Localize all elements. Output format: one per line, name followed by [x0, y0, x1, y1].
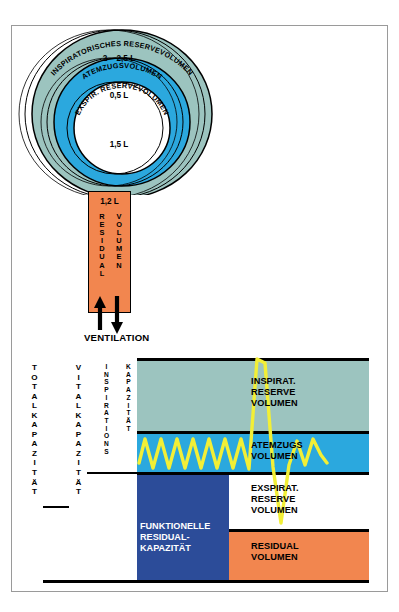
cap-irv-l2: RESERVE — [251, 387, 295, 397]
ring-value-erv: 1,5 L — [110, 140, 129, 149]
capacity-label-inspiratory-part2: KAPAZITÄT — [123, 363, 134, 432]
cap-tv-l2: VOLUMEN — [251, 451, 298, 461]
ventilation-label: VENTILATION — [84, 332, 184, 343]
capacity-label-total: TOTALKAPAZITÄT — [29, 363, 40, 497]
capacity-label-vital: VITALKAPAZITÄT — [73, 363, 84, 497]
frc-label: FUNKTIONELLE RESIDUAL- KAPAZITÄT — [140, 521, 232, 555]
caption-expiratory-reserve-volume: EXSPIRAT. RESERVE VOLUMEN — [251, 483, 299, 516]
rule-total-capacity-top — [137, 358, 369, 361]
cap-rv-l1: RESIDUAL — [251, 541, 299, 551]
diagram-page: INSPIRATORISCHES RESERVEVOLUMEN ATEMZUGS… — [0, 0, 399, 612]
residual-volume-box: 1,2 L RESIDUAL VOLUMEN — [88, 191, 131, 313]
frc-label-line3: KAPAZITÄT — [140, 543, 191, 553]
spirogram-chart: FUNKTIONELLE RESIDUAL- KAPAZITÄT INSPIRA… — [29, 355, 369, 587]
functional-residual-capacity-block: FUNKTIONELLE RESIDUAL- KAPAZITÄT — [137, 475, 229, 580]
ring-value-tidal: 0,5 L — [110, 91, 129, 100]
residual-volume-value: 1,2 L — [89, 197, 130, 206]
caption-inspiratory-reserve-volume: INSPIRAT. RESERVE VOLUMEN — [251, 376, 298, 409]
frc-label-line1: FUNKTIONELLE — [140, 521, 210, 531]
cap-irv-l3: VOLUMEN — [251, 398, 298, 408]
lung-volume-rings: INSPIRATORISCHES RESERVEVOLUMEN ATEMZUGS… — [14, 10, 229, 195]
volumen-word-vertical: VOLUMEN — [113, 213, 125, 270]
arrow-up-icon — [94, 296, 106, 330]
tick-total-capacity — [43, 506, 69, 508]
cap-tv-l1: ATEMZUGS — [251, 440, 303, 450]
arrow-down-icon — [111, 296, 123, 334]
residual-word-vertical: RESIDUAL — [96, 213, 108, 278]
ventilation-group: VENTILATION — [84, 296, 176, 346]
cap-erv-l1: EXSPIRAT. — [251, 483, 299, 493]
cap-irv-l1: INSPIRAT. — [251, 376, 296, 386]
ring-value-irv: 2 – 2,5 L — [103, 54, 135, 63]
cap-erv-l3: VOLUMEN — [251, 505, 298, 515]
caption-residual-volume: RESIDUAL VOLUMEN — [251, 541, 299, 563]
cap-erv-l2: RESERVE — [251, 494, 295, 504]
capacity-label-inspiratory-part1: INSPIRATIONS — [101, 363, 112, 455]
cap-rv-l2: VOLUMEN — [251, 552, 298, 562]
rule-irv-tidal — [137, 431, 369, 434]
caption-tidal-volume: ATEMZUGS VOLUMEN — [251, 440, 303, 462]
frc-label-line2: RESIDUAL- — [140, 532, 190, 542]
tick-vital-capacity — [87, 472, 137, 474]
